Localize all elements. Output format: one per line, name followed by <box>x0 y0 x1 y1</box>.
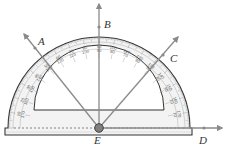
protractor-diagram: 1701016020150301404013050120601107010080… <box>0 0 231 148</box>
point-d-dot <box>202 126 205 129</box>
point-c-dot <box>161 53 164 56</box>
label-e: E <box>93 134 101 146</box>
vertex-e <box>95 124 104 133</box>
label-d: D <box>198 134 207 146</box>
label-c: C <box>170 52 178 64</box>
label-a: A <box>37 35 45 47</box>
point-a-dot <box>33 46 36 49</box>
point-b-dot <box>97 25 100 28</box>
label-b: B <box>104 18 111 30</box>
